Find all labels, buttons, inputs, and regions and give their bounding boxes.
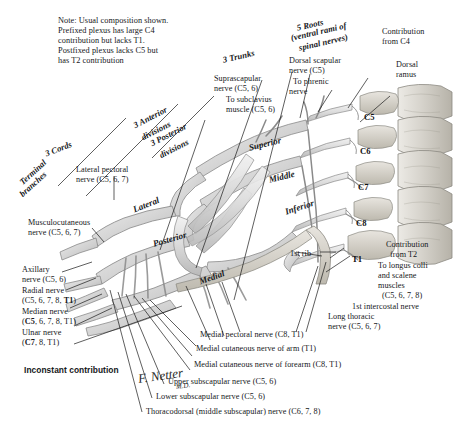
longus-colli-label-line3: muscles (378, 281, 405, 291)
vertebra-label-c6: C6 (360, 147, 371, 157)
lateral-pectoral-nerve-label-line2: nerve (C5, 6, 7) (76, 175, 128, 185)
dorsal-ramus-label: Dorsal (396, 60, 418, 70)
lateral-pectoral-nerve-label: Lateral pectoral (76, 165, 128, 175)
first-rib-label: 1st rib (290, 249, 311, 259)
composition-note: Note: Usual composition shown. (58, 16, 168, 26)
ulnar-nerve-label-line2: (C7, 8, T1) (22, 338, 59, 348)
composition-note-line5: has T2 contribution (58, 56, 124, 66)
contribution-t2-label: Contribution (386, 240, 428, 250)
radial-nerve-label-line2: (C5, 6, 7, 8, T1) (22, 296, 76, 306)
brachial-plexus-figure: Note: Usual composition shown. Prefixed … (0, 0, 455, 435)
long-thoracic-nerve-label-line2: nerve (C5, 6, 7) (328, 322, 380, 332)
vertebra-label-c5: C5 (364, 113, 375, 123)
bottom-label-1: Medial cutaneous nerve of arm (T1) (196, 344, 316, 354)
subclavius-muscle-label-line2: muscle (C5, 6) (226, 105, 275, 115)
axillary-nerve-label-line2: nerve (C5, 6) (22, 275, 66, 285)
phrenic-nerve-label: To phrenic (293, 77, 329, 87)
contribution-c4-label: Contribution (382, 27, 424, 37)
ulnar-nerve-label: Ulnar nerve (22, 328, 61, 338)
first-intercostal-nerve-label: 1st intercostal nerve (352, 302, 419, 312)
longus-colli-label-line2: and scalene (378, 271, 417, 281)
dorsal-ramus-label-line2: ramus (396, 70, 416, 80)
bottom-label-4: Lower subscapular nerve (C5, 6) (156, 392, 265, 402)
dorsal-scapular-nerve-label-line2: nerve (C5) (289, 66, 325, 76)
radial-nerve-label: Radial nerve (22, 286, 64, 296)
contribution-t2-label-line2: from T2 (390, 250, 417, 260)
longus-colli-label-line4: (C5, 6, 7, 8) (382, 291, 422, 301)
composition-note-line4: Postfixed plexus lacks C5 but (58, 46, 158, 56)
vertebra-label-t1: T1 (352, 255, 362, 265)
composition-note-line2: Prefixed plexus has large C4 (58, 26, 155, 36)
phrenic-nerve-label-line2: nerve (289, 87, 307, 97)
suprascapular-nerve-label-line2: nerve (C5, 6) (214, 84, 258, 94)
dorsal-scapular-nerve-label: Dorsal scapular (289, 56, 341, 66)
bottom-label-5: Thoracodorsal (middle subscapular) nerve… (146, 407, 320, 417)
median-nerve-label-line2: (C5, 6, 7, 8, T1) (22, 317, 76, 327)
subclavius-muscle-label: To subclavius (226, 95, 272, 105)
vertebra-label-c7: C7 (358, 183, 369, 193)
axillary-nerve-label: Axillary (22, 265, 50, 275)
musculocutaneous-nerve-label-line2: nerve (C5, 6, 7) (28, 228, 80, 238)
vertebra-label-c8: C8 (356, 219, 367, 229)
contribution-c4-label-line2: from C4 (382, 37, 410, 47)
median-nerve-label: Median nerve (22, 307, 68, 317)
musculocutaneous-nerve-label: Musculocutaneous (28, 218, 90, 228)
composition-note-line3: contribution but lacks T1. (58, 36, 145, 46)
inconstant-contribution-label: Inconstant contribution (24, 366, 119, 376)
longus-colli-label: To longus colli (378, 261, 428, 271)
long-thoracic-nerve-label: Long thoracic (328, 312, 374, 322)
bottom-label-2: Medial cutaneous nerve of forearm (C8, T… (194, 360, 341, 370)
bottom-label-0: Medial pectoral nerve (C8, T1) (200, 330, 303, 340)
suprascapular-nerve-label: Suprascapular (214, 74, 261, 84)
